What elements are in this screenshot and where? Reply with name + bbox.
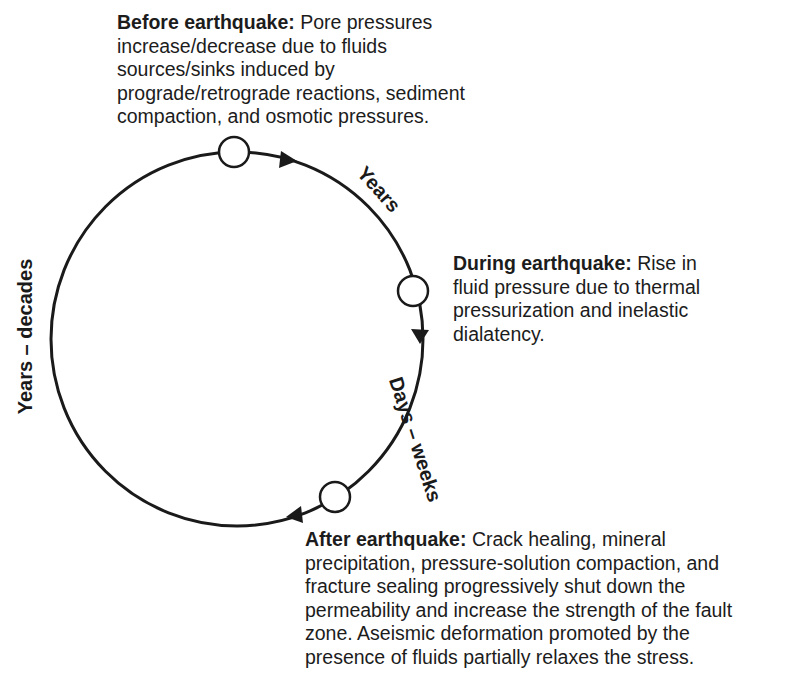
note-after-line-2: precipitation, pressure-solution compact… xyxy=(305,552,719,574)
note-after-line-1: Crack healing, mineral xyxy=(472,528,666,550)
duration-label-years-decades: Years – decades xyxy=(14,259,37,415)
node-during-earthquake xyxy=(398,276,428,306)
note-before-line-5: compaction, and osmotic pressures. xyxy=(117,105,429,127)
earthquake-fluid-cycle-diagram: Years Days – weeks Years – decades Befor… xyxy=(0,0,790,692)
cycle-ring xyxy=(51,152,423,526)
note-before-earthquake: Before earthquake: Pore pressures increa… xyxy=(117,11,517,129)
note-before-line-3: sources/sinks induced by xyxy=(117,58,335,80)
note-before-line-2: increase/decrease due to fluids xyxy=(117,35,387,57)
note-before-line-4: prograde/retrograde reactions, sediment xyxy=(117,82,465,104)
note-after-earthquake: After earthquake: Crack healing, mineral… xyxy=(305,528,790,669)
note-after-line-3: fracture sealing progressively shut down… xyxy=(305,575,685,597)
note-before-line-1: Pore pressures xyxy=(300,11,432,33)
arrow-before-to-during-icon xyxy=(279,151,297,168)
note-before-heading: Before earthquake: xyxy=(117,11,300,33)
node-after-earthquake xyxy=(320,482,350,512)
node-before-earthquake xyxy=(219,137,249,167)
note-after-line-5: zone. Aseismic deformation promoted by t… xyxy=(305,622,690,644)
arrow-during-to-after-icon xyxy=(411,329,429,344)
note-after-heading: After earthquake: xyxy=(305,528,472,550)
note-during-line-1: Rise in xyxy=(637,252,697,274)
note-during-earthquake: During earthquake: Rise in fluid pressur… xyxy=(453,252,753,346)
arrow-after-to-before-icon xyxy=(286,506,303,523)
note-after-line-4: permeability and increase the strength o… xyxy=(305,599,732,621)
note-during-line-4: dialatency. xyxy=(453,323,545,345)
note-during-line-2: fluid pressure due to thermal xyxy=(453,276,700,298)
note-after-line-6: presence of fluids partially relaxes the… xyxy=(305,646,694,668)
note-during-heading: During earthquake: xyxy=(453,252,637,274)
note-during-line-3: pressurization and inelastic xyxy=(453,299,688,321)
